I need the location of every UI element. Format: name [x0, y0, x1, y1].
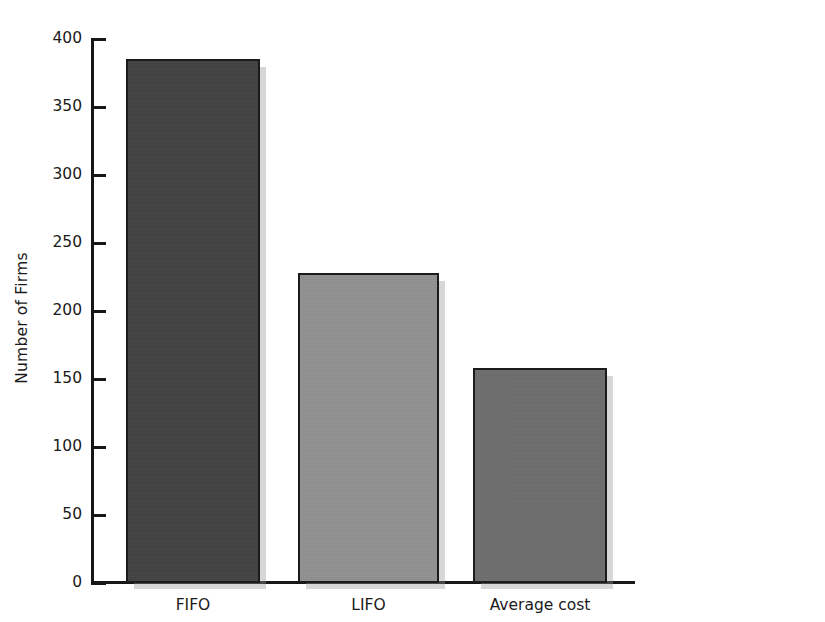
bar-average-cost: [473, 368, 607, 583]
bar-fifo: [126, 59, 260, 583]
bar-chart-figure: Number of Firms 400350300250200150100500…: [0, 0, 825, 622]
bar-texture: [300, 275, 437, 581]
bar-lifo: [298, 273, 439, 583]
x-axis-label-fifo: FIFO: [93, 598, 293, 614]
x-axis-label-lifo: LIFO: [269, 598, 469, 614]
x-axis-label-average-cost: Average cost: [440, 598, 640, 614]
bar-texture: [475, 370, 605, 581]
bar-texture: [128, 61, 258, 581]
plot-area: [0, 0, 825, 622]
